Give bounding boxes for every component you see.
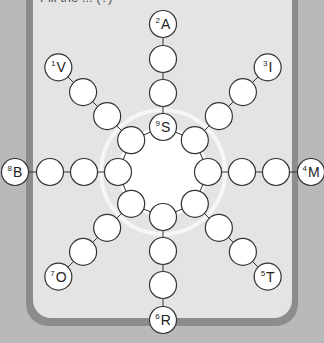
ring-cell-5[interactable]: [150, 204, 177, 231]
spoke-up-cell-2[interactable]: [150, 46, 177, 73]
cell-clue: 1V: [51, 59, 66, 75]
clue-letter: R: [161, 312, 171, 328]
ring-cell-6[interactable]: [118, 190, 145, 217]
spoke-left-cell-1[interactable]: [71, 159, 98, 186]
clue-letter: O: [56, 269, 67, 285]
spoke-up-cell-1[interactable]: [150, 80, 177, 107]
clue-number: 7: [50, 269, 54, 278]
spoke-down-cell-2[interactable]: [150, 272, 177, 299]
cell-clue: 8B: [8, 164, 23, 180]
spoke-down-cell-1[interactable]: [150, 238, 177, 265]
clue-letter: T: [266, 269, 275, 285]
clue-letter: B: [13, 164, 22, 180]
ring-cell-2[interactable]: [181, 127, 208, 154]
clue-number: 2: [156, 16, 160, 25]
spoke-up-left-cell-2[interactable]: [70, 79, 97, 106]
clue-number: 4: [302, 164, 306, 173]
cell-clue: 4M: [302, 164, 319, 180]
spoke-down-right-cell-2[interactable]: [229, 238, 256, 265]
cell-clue: 3I: [263, 59, 272, 75]
clue-number: 8: [8, 164, 12, 173]
spoke-up-left-cell-1[interactable]: [94, 103, 121, 130]
ring-cell-4[interactable]: [181, 190, 208, 217]
spoke-down-right-cell-1[interactable]: [205, 214, 232, 241]
puzzle-board: [0, 0, 324, 343]
clue-number: 5: [261, 269, 265, 278]
spoke-left-cell-2[interactable]: [37, 159, 64, 186]
clue-letter: S: [161, 119, 170, 135]
cell-clue: 9S: [156, 119, 171, 135]
clue-letter: A: [161, 16, 170, 32]
spoke-up-right-cell-2[interactable]: [229, 79, 256, 106]
spoke-down-left-cell-2[interactable]: [70, 238, 97, 265]
cell-clue: 5T: [261, 269, 275, 285]
spoke-right-cell-2[interactable]: [263, 159, 290, 186]
ring-cell-8[interactable]: [118, 127, 145, 154]
clue-number: 9: [156, 119, 160, 128]
spoke-up-right-cell-1[interactable]: [205, 103, 232, 130]
cell-clue: 2A: [156, 16, 171, 32]
clue-letter: M: [308, 164, 320, 180]
ring-cell-7[interactable]: [105, 159, 132, 186]
clue-letter: V: [56, 59, 65, 75]
ring-cell-3[interactable]: [195, 159, 222, 186]
clue-number: 1: [51, 59, 55, 68]
clue-letter: I: [268, 59, 272, 75]
clue-number: 6: [155, 312, 159, 321]
cell-clue: 6R: [155, 312, 171, 328]
spoke-down-left-cell-1[interactable]: [94, 214, 121, 241]
clue-number: 3: [263, 59, 267, 68]
cell-clue: 7O: [50, 269, 66, 285]
spoke-right-cell-1[interactable]: [229, 159, 256, 186]
